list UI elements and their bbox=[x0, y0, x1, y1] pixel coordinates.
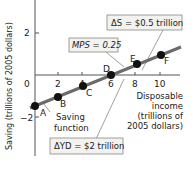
point-a bbox=[31, 102, 39, 110]
annotation-delta-s: ΔS = $0.5 trillion bbox=[107, 15, 183, 30]
y-axis-label: Saving (trillions of 2005 dollars) bbox=[5, 22, 14, 150]
x-axis-label-line3: (trillions of bbox=[137, 111, 184, 121]
x-axis-label-line1: Disposable bbox=[136, 91, 183, 101]
point-label-e: E bbox=[130, 54, 136, 64]
point-label-f: F bbox=[164, 56, 169, 66]
x-axis-label-line2: income bbox=[152, 101, 183, 111]
annotation-mps: MPS = 0.25 bbox=[69, 38, 121, 52]
point-label-d: D bbox=[103, 64, 110, 74]
annotation-delta-yd: ΔYD = $2 trillion bbox=[50, 138, 124, 154]
svg-text:ΔYD = $2 trillion: ΔYD = $2 trillion bbox=[54, 141, 124, 151]
y-tick-2: 2 bbox=[24, 28, 30, 38]
x-tick-2: 2 bbox=[55, 79, 61, 89]
y-tick-neg2: −2 bbox=[20, 113, 33, 123]
x-tick-10: 10 bbox=[154, 79, 166, 89]
svg-text:MPS = 0.25: MPS = 0.25 bbox=[72, 40, 121, 50]
svg-text:ΔS = $0.5 trillion: ΔS = $0.5 trillion bbox=[111, 18, 183, 28]
x-tick-8: 8 bbox=[132, 79, 138, 89]
x-tick-6: 6 bbox=[108, 79, 114, 89]
point-label-a: A bbox=[40, 108, 47, 118]
saving-function-label-line1: Saving bbox=[56, 112, 85, 122]
leader-delta-s bbox=[142, 30, 163, 70]
y-tick-0: 0 bbox=[24, 79, 30, 89]
saving-function-label-line2: function bbox=[54, 123, 89, 133]
point-label-c: C bbox=[86, 88, 92, 98]
point-label-b: B bbox=[60, 99, 66, 109]
x-axis-label-line4: 2005 dollars) bbox=[127, 121, 183, 131]
saving-function-chart: 2 0 −2 2 4 6 8 10 Saving (trillions of 2… bbox=[0, 0, 196, 179]
